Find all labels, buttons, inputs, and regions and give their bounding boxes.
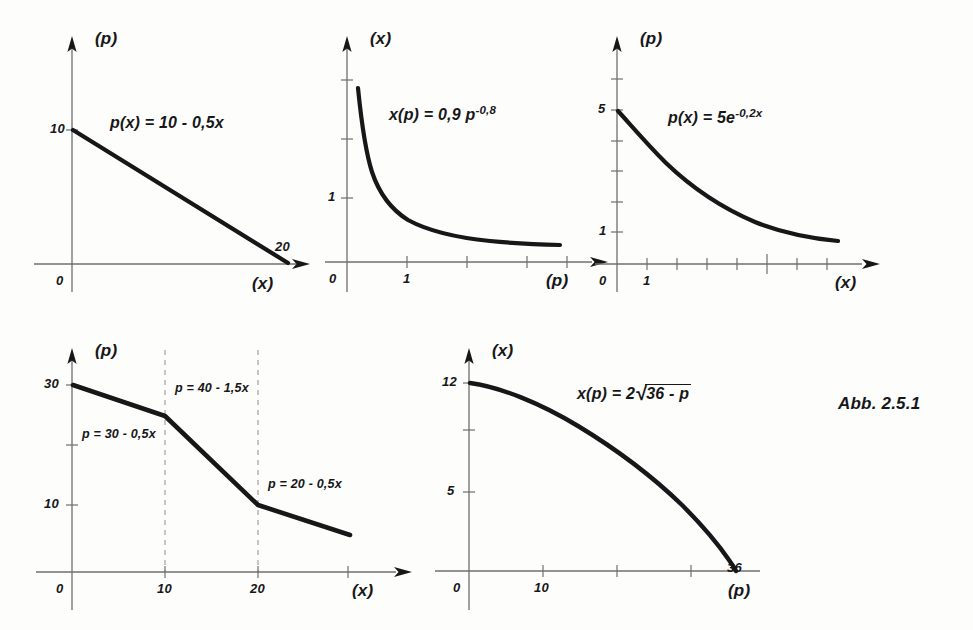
y-axis-label: (x): [492, 342, 513, 359]
chart-piecewise-demand: (p) (x) 30 10 10 20 0 p = 30 - 0,5x p = …: [0, 320, 440, 630]
x-tick-label-1: 1: [643, 274, 650, 287]
x-axis-label: (p): [546, 272, 568, 289]
chart-root-demand: (x) (p) 12 5 10 36 0 x(p) = 2√36 - p: [430, 320, 810, 630]
x-axis-label: (p): [728, 582, 750, 599]
y-tick-label-1: 1: [328, 190, 335, 203]
y-tick-label-30: 30: [44, 377, 59, 390]
x-tick-label-20: 20: [250, 582, 265, 595]
segment-label-1: p = 30 - 0,5x: [82, 428, 156, 441]
x-axis-arrow-icon: [862, 259, 880, 269]
figure-sheet: (p) (x) 10 20 0 p(x) = 10 - 0,5x (x) (p)…: [0, 0, 973, 630]
y-axis-label: (p): [95, 342, 117, 359]
chart-linear-demand-canvas: [0, 0, 320, 310]
x-axis-label: (x): [835, 274, 856, 291]
x-axis-arrow-icon: [394, 567, 412, 577]
segment-label-3: p = 20 - 0,5x: [268, 478, 342, 491]
equation-label: p(x) = 5e-0,2x: [668, 108, 762, 126]
chart-isoelastic-demand-canvas: [320, 0, 620, 310]
equation-radicand: 36 - p: [645, 384, 691, 402]
y-tick-label-5: 5: [598, 102, 605, 115]
chart-isoelastic-demand: (x) (p) 1 1 0 x(p) = 0,9 p-0,8: [320, 0, 620, 310]
x-tick-label-10: 10: [157, 582, 172, 595]
demand-curve: [470, 383, 736, 571]
demand-curve: [618, 111, 838, 241]
demand-line: [73, 130, 288, 263]
y-tick-label-1: 1: [599, 224, 606, 237]
figure-caption: Abb. 2.5.1: [838, 395, 920, 412]
equation-label: x(p) = 2√36 - p: [577, 382, 691, 402]
x-tick-label-10: 10: [534, 581, 549, 594]
equation-exponent: -0,8: [475, 104, 496, 116]
x-tick-label-36: 36: [727, 561, 742, 574]
equation-label: x(p) = 0,9 p-0,8: [389, 105, 496, 123]
origin-label: 0: [56, 582, 63, 595]
equation-exponent: -0,2x: [735, 107, 762, 119]
equation-prefix: x(p) = 2: [577, 385, 635, 402]
segment-label-2: p = 40 - 1,5x: [175, 382, 249, 395]
equation-base: p(x) = 5e: [668, 109, 735, 126]
equation-label: p(x) = 10 - 0,5x: [110, 115, 224, 131]
x-axis-label: (x): [352, 582, 373, 599]
radical-sign-icon: √: [635, 383, 646, 403]
x-tick-label-20: 20: [275, 240, 290, 253]
chart-exponential-demand: (p) (x) 5 1 1 0 p(x) = 5e-0,2x: [590, 0, 973, 310]
x-axis-label: (x): [252, 275, 273, 292]
y-tick-label-5: 5: [447, 484, 454, 497]
y-tick-label-10: 10: [50, 122, 65, 135]
y-axis-label: (p): [95, 30, 117, 47]
origin-label: 0: [329, 272, 336, 285]
origin-label: 0: [599, 274, 606, 287]
chart-root-demand-canvas: [430, 320, 810, 630]
y-axis-label: (x): [370, 30, 391, 47]
chart-piecewise-demand-canvas: [0, 320, 440, 630]
chart-linear-demand: (p) (x) 10 20 0 p(x) = 10 - 0,5x: [0, 0, 320, 310]
y-tick-label-10: 10: [44, 497, 59, 510]
y-tick-label-12: 12: [442, 375, 457, 388]
origin-label: 0: [56, 274, 63, 287]
origin-label: 0: [453, 581, 460, 594]
x-tick-label-1: 1: [403, 272, 410, 285]
piecewise-demand-line: [73, 385, 350, 535]
equation-base: x(p) = 0,9 p: [389, 106, 475, 123]
y-axis-label: (p): [640, 30, 662, 47]
